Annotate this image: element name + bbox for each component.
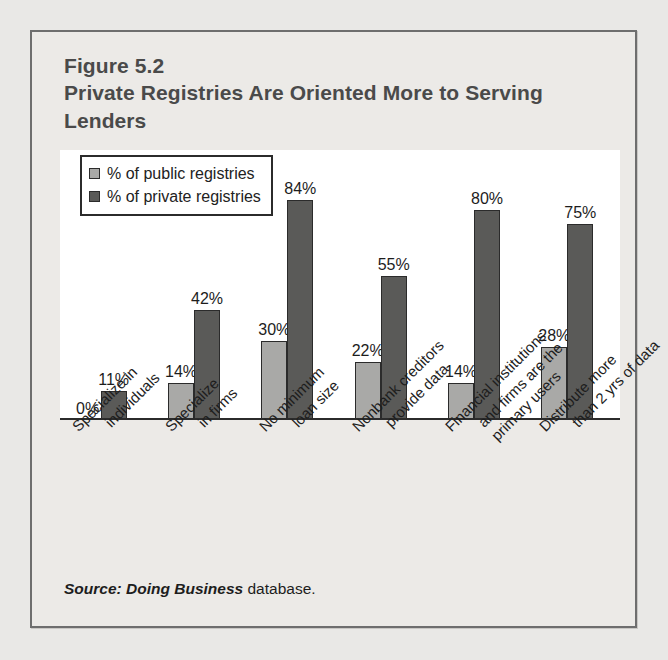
bar-value-label: 42% xyxy=(184,290,230,308)
figure-title-block: Figure 5.2 Private Registries Are Orient… xyxy=(64,52,594,134)
figure-panel: Figure 5.2 Private Registries Are Orient… xyxy=(30,30,637,628)
bar-value-label: 75% xyxy=(557,204,603,222)
chart-legend: % of public registries % of private regi… xyxy=(80,155,273,216)
bar-value-label: 84% xyxy=(277,180,323,198)
bar-value-label: 80% xyxy=(464,190,510,208)
legend-swatch-public-icon xyxy=(89,168,100,179)
legend-label-public: % of public registries xyxy=(107,165,255,183)
legend-item-private[interactable]: % of private registries xyxy=(89,185,261,208)
source-publication: Doing Business xyxy=(126,580,243,597)
x-axis-tick-labels: Specialize inindividualsSpecializein fir… xyxy=(60,422,620,572)
figure-number: Figure 5.2 xyxy=(64,54,164,77)
source-suffix: database. xyxy=(247,580,315,597)
source-note: Source: Doing Business database. xyxy=(64,580,316,598)
legend-label-private: % of private registries xyxy=(107,188,261,206)
bar-value-label: 55% xyxy=(371,256,417,274)
legend-swatch-private-icon xyxy=(89,191,100,202)
legend-item-public[interactable]: % of public registries xyxy=(89,162,261,185)
source-prefix: Source: xyxy=(64,580,122,597)
page-title: Private Registries Are Oriented More to … xyxy=(64,79,594,134)
